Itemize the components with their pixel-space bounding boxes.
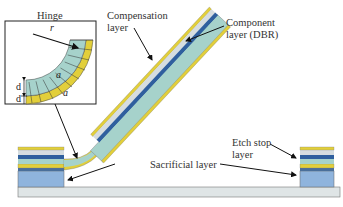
component-layer-label-line2: layer (DBR) xyxy=(226,29,278,40)
sacrificial-right-pointer xyxy=(220,164,296,175)
compensation-layer-label-line2: layer xyxy=(107,22,128,33)
radius-symbol: r xyxy=(50,22,54,33)
substrate xyxy=(18,187,340,197)
component-layer-label-line1: Component xyxy=(226,17,275,28)
hinge-label: Hinge xyxy=(37,10,63,21)
left-anchor-stack xyxy=(18,147,64,187)
right-anchor-stack xyxy=(300,147,334,187)
etch-stop-pointer xyxy=(270,144,296,158)
thickness-symbol-bottom: d xyxy=(16,93,21,104)
compensation-layer-label-line1: Compensation xyxy=(107,10,168,21)
etch-stop-layer-label-line1: Etch stop xyxy=(232,137,271,148)
etch-stop-layer-label-line2: layer xyxy=(232,149,253,160)
thickness-symbol-top: d xyxy=(16,81,21,92)
segment-symbol-outer: a xyxy=(63,87,68,98)
sacrificial-layer-label: Sacrificial layer xyxy=(150,159,217,170)
compensation-pointer xyxy=(134,28,152,60)
segment-symbol-inner: a xyxy=(56,69,61,80)
tilted-beam xyxy=(82,7,230,163)
